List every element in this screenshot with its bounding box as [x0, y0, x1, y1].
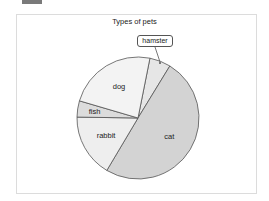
pie-chart: catrabbitfishdog [0, 0, 269, 201]
slice-label-cat: cat [164, 132, 175, 141]
pie-slices [77, 57, 199, 179]
slice-label-dog: dog [113, 82, 126, 91]
slice-label-rabbit: rabbit [97, 131, 117, 140]
hamster-callout-label: hamster [137, 35, 173, 47]
slice-label-fish: fish [89, 107, 101, 116]
callout-dot [159, 62, 161, 64]
